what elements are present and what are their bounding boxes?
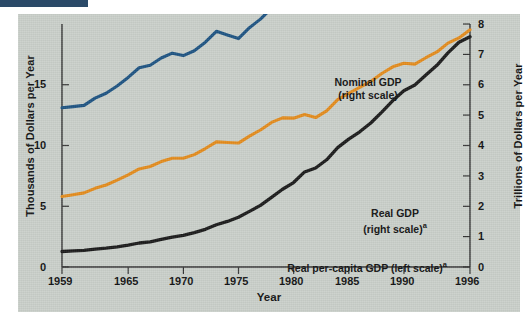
annotation-real-gdp-footnote-marker: a <box>423 221 427 230</box>
annotation-nominal-gdp: Nominal GDP (right scale) <box>308 76 428 101</box>
y-axis-right-title: Trillions of Dollars per Year <box>512 6 524 266</box>
y-tick-label-right-5: 5 <box>478 109 484 121</box>
x-tick-label-1959: 1959 <box>48 275 72 287</box>
y-tick-label-right-4: 4 <box>478 139 484 151</box>
y-tick-label-left-10: 10 <box>34 139 46 151</box>
annotation-real-per-capita-gdp-footnote-marker: a <box>443 260 447 269</box>
x-tick-label-1996: 1996 <box>455 275 479 287</box>
y-tick-label-right-6: 6 <box>478 78 484 90</box>
y-ticks-right <box>463 24 470 267</box>
y-ticks-left <box>62 85 69 267</box>
annotation-real-gdp-line1: Real GDP <box>371 207 419 219</box>
chart-panel: Thousands of Dollars per Year Trillions … <box>18 14 520 312</box>
x-tick-label-1975: 1975 <box>224 275 248 287</box>
annotation-real-per-capita-gdp-text: Real per-capita GDP (left scale) <box>287 262 443 274</box>
x-tick-label-1990: 1990 <box>390 275 414 287</box>
x-tick-label-1970: 1970 <box>169 275 193 287</box>
x-axis-title: Year <box>18 291 520 303</box>
y-tick-label-right-2: 2 <box>478 200 484 212</box>
y-tick-label-right-3: 3 <box>478 170 484 182</box>
figure-root: Thousands of Dollars per Year Trillions … <box>0 0 531 327</box>
y-tick-label-right-1: 1 <box>478 230 484 242</box>
y-axis-left-title: Thousands of Dollars per Year <box>24 6 36 266</box>
annotation-real-per-capita-gdp: Real per-capita GDP (left scale)a <box>231 259 447 274</box>
y-tick-label-left-0: 0 <box>40 261 46 273</box>
annotation-nominal-gdp-line2: (right scale) <box>338 89 398 101</box>
y-tick-label-right-0: 0 <box>478 261 484 273</box>
annotation-nominal-gdp-line1: Nominal GDP <box>334 76 401 88</box>
x-tick-label-1965: 1965 <box>114 275 138 287</box>
accent-bar <box>0 0 88 7</box>
x-tick-label-1980: 1980 <box>279 275 303 287</box>
x-tick-label-1985: 1985 <box>335 275 359 287</box>
y-tick-label-right-7: 7 <box>478 48 484 60</box>
annotation-real-gdp: Real GDP (right scale)a <box>340 207 450 235</box>
series-real-gdp <box>62 30 470 197</box>
y-tick-label-left-5: 5 <box>40 200 46 212</box>
y-tick-label-left-15: 15 <box>34 78 46 90</box>
annotation-real-gdp-line2: (right scale) <box>363 222 423 234</box>
y-tick-label-right-8: 8 <box>478 18 484 30</box>
